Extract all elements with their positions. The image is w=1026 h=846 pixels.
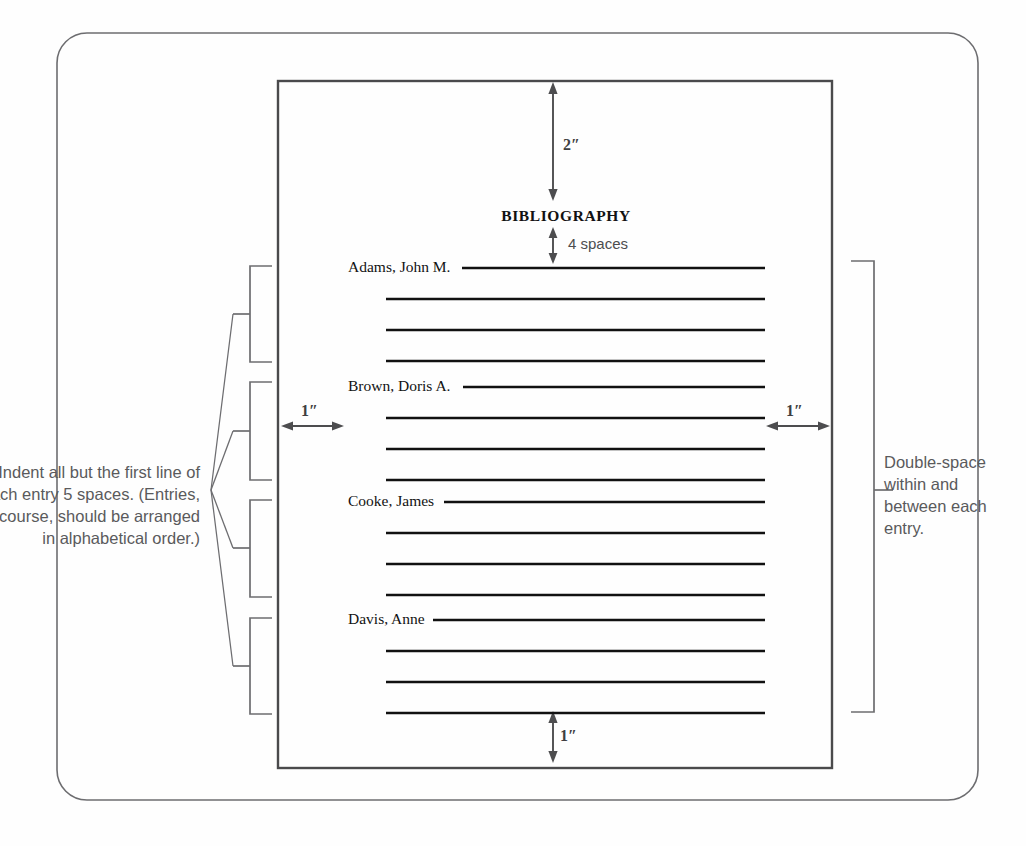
left-bracket [250, 382, 272, 480]
right-margin-label: 1″ [786, 401, 803, 421]
inner-page-rectangle [278, 81, 832, 768]
left-bracket [250, 618, 272, 714]
left-margin-label: 1″ [301, 401, 318, 421]
left-bracket [250, 266, 272, 362]
right-margin-arrow [766, 421, 830, 430]
note-leader-lines [211, 314, 233, 666]
entry-name: Adams, John M. [348, 258, 450, 276]
heading-gap-arrow [549, 227, 558, 264]
outer-rounded-frame [57, 33, 978, 800]
bottom-margin-arrow [548, 711, 557, 763]
heading-gap-label: 4 spaces [568, 234, 628, 253]
entry-name: Davis, Anne [348, 610, 425, 628]
spacing-note: Double-space within and between each ent… [884, 452, 1024, 540]
diagram-canvas [0, 0, 1026, 846]
top-margin-arrow [548, 82, 557, 201]
entry-name: Cooke, James [348, 492, 434, 510]
page-title: BIBLIOGRAPHY [501, 207, 631, 225]
entry-name: Brown, Doris A. [348, 377, 450, 395]
left-bracket-group [233, 266, 272, 714]
left-bracket [250, 500, 272, 597]
bibliography-page-diagram: BIBLIOGRAPHY 2″ 4 spaces 1″ 1″ 1″ Adams,… [0, 0, 1026, 846]
left-margin-arrow [281, 421, 344, 430]
entry-rule-group [386, 268, 765, 713]
bottom-margin-label: 1″ [560, 726, 577, 746]
indent-note: Indent all but the first line of each en… [0, 462, 200, 550]
right-bracket [851, 261, 874, 712]
top-margin-label: 2″ [563, 135, 580, 155]
